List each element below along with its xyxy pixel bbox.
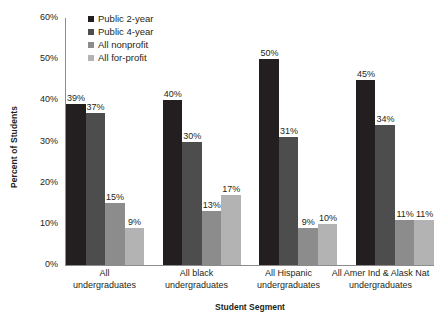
bar-value-label: 37% (87, 102, 105, 112)
legend-swatch-icon (88, 16, 94, 22)
bar-value-label: 17% (222, 184, 240, 194)
bar-slot: 40% (163, 18, 183, 265)
bar[interactable]: 37% (86, 113, 106, 265)
bar[interactable]: 10% (318, 224, 338, 265)
bar[interactable]: 31% (279, 137, 299, 265)
bar-value-label: 30% (183, 131, 201, 141)
bar-slot: 39% (66, 18, 86, 265)
bar-slot: 30% (182, 18, 202, 265)
bar[interactable]: 15% (105, 203, 125, 265)
legend-label: All nonprofit (98, 39, 148, 51)
bar-value-label: 45% (357, 69, 375, 79)
legend-item[interactable]: All nonprofit (88, 39, 153, 51)
bar-value-label: 11% (416, 209, 433, 219)
bar-value-label: 9% (128, 217, 141, 227)
bar[interactable]: 34% (375, 125, 395, 265)
bar-slot: 13% (202, 18, 222, 265)
legend-label: All for-profit (98, 52, 147, 64)
bar-slot: 31% (279, 18, 299, 265)
chart-legend: Public 2-yearPublic 4-yearAll nonprofitA… (88, 13, 153, 64)
legend-label: Public 4-year (98, 26, 153, 38)
legend-label: Public 2-year (98, 13, 153, 25)
bar-value-label: 34% (377, 114, 395, 124)
bar[interactable]: 13% (202, 211, 222, 265)
y-axis-tick-label: 30% (18, 136, 58, 146)
bar-slot: 45% (356, 18, 376, 265)
y-axis-tick-label: 40% (18, 94, 58, 104)
x-axis-category-label: All Hispanicundergraduates (235, 268, 342, 291)
bar-value-label: 9% (302, 217, 315, 227)
legend-item[interactable]: Public 4-year (88, 26, 153, 38)
legend-swatch-icon (88, 55, 94, 61)
y-axis-tick-label: 20% (18, 177, 58, 187)
bar-group: 50%31%9%10% (259, 18, 337, 265)
y-axis-tick-label: 10% (18, 218, 58, 228)
bar[interactable]: 9% (125, 228, 145, 265)
x-axis-category-label: All blackundergraduates (143, 268, 250, 291)
bar-slot: 9% (298, 18, 318, 265)
bar-value-label: 40% (164, 89, 182, 99)
bar-chart: Percent of Students 0%10%20%30%40%50%60%… (0, 0, 439, 326)
bar[interactable]: 17% (221, 195, 241, 265)
y-axis-title: Percent of Students (9, 87, 19, 207)
x-axis-category-label-line: All Hispanic (235, 268, 342, 280)
bar-slot: 50% (259, 18, 279, 265)
bar[interactable]: 11% (414, 220, 434, 265)
bar[interactable]: 45% (356, 80, 376, 265)
x-axis-category-label-line: All (51, 268, 158, 280)
legend-item[interactable]: All for-profit (88, 52, 153, 64)
bar-value-label: 10% (319, 213, 337, 223)
bar-slot: 10% (318, 18, 338, 265)
bar-slot: 34% (375, 18, 395, 265)
bar-group: 40%30%13%17% (163, 18, 241, 265)
bar-slot: 11% (414, 18, 434, 265)
x-axis-category-labels: AllundergraduatesAll blackundergraduates… (66, 268, 434, 291)
bar-group: 45%34%11%11% (356, 18, 434, 265)
x-axis-category-label-line: undergraduates (143, 280, 250, 292)
bar-value-label: 39% (67, 93, 85, 103)
legend-swatch-icon (88, 29, 94, 35)
x-axis-category-label-line: undergraduates (327, 280, 434, 292)
bar-slot: 17% (221, 18, 241, 265)
legend-swatch-icon (88, 42, 94, 48)
x-axis-category-label: Allundergraduates (51, 268, 158, 291)
x-axis-category-label-line: All black (143, 268, 250, 280)
x-axis-line (65, 265, 434, 266)
bar-value-label: 31% (280, 126, 298, 136)
x-axis-title: Student Segment (66, 302, 434, 312)
legend-item[interactable]: Public 2-year (88, 13, 153, 25)
bar[interactable]: 39% (66, 104, 86, 265)
bar[interactable]: 11% (395, 220, 415, 265)
x-axis-category-label: All Amer Ind & Alask Natundergraduates (327, 268, 434, 291)
x-axis-category-label-line: undergraduates (235, 280, 342, 292)
bar-slot: 11% (395, 18, 415, 265)
bar-value-label: 11% (396, 209, 413, 219)
bar[interactable]: 40% (163, 100, 183, 265)
bar[interactable]: 9% (298, 228, 318, 265)
y-axis-tick-label: 50% (18, 53, 58, 63)
x-axis-category-label-line: All Amer Ind & Alask Nat (327, 268, 434, 280)
bar-value-label: 15% (106, 192, 124, 202)
bar-value-label: 50% (260, 48, 278, 58)
bar-value-label: 13% (203, 200, 221, 210)
y-axis-tick-label: 60% (18, 12, 58, 22)
bar[interactable]: 30% (182, 142, 202, 266)
x-axis-category-label-line: undergraduates (51, 280, 158, 292)
bar[interactable]: 50% (259, 59, 279, 265)
